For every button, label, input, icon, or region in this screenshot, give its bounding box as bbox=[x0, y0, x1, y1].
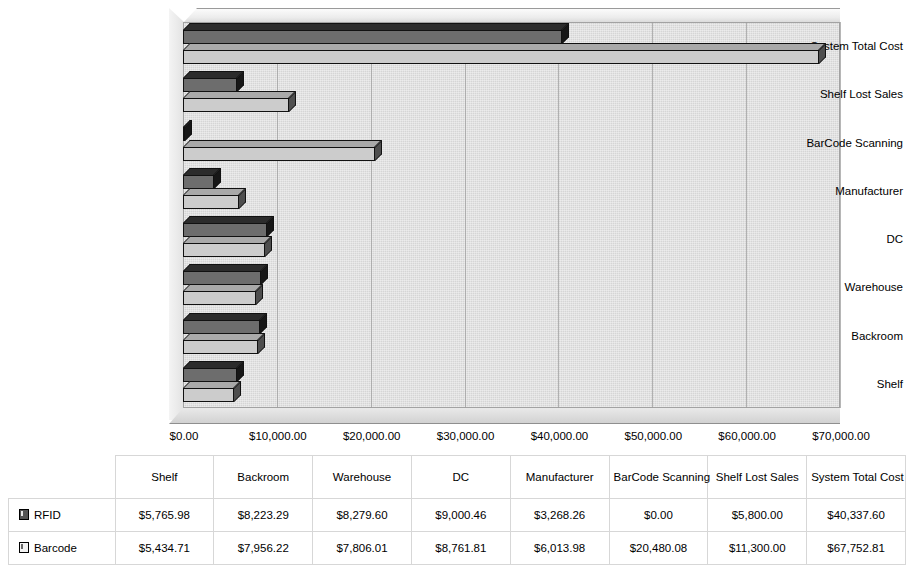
bar-barcode-warehouse bbox=[183, 284, 256, 298]
table-column-header: DC bbox=[411, 456, 510, 499]
bar-barcode-backroom bbox=[183, 333, 258, 347]
x-axis-tick-label: $40,000.00 bbox=[531, 430, 589, 442]
plot-area-background bbox=[183, 22, 840, 408]
gridline bbox=[652, 22, 653, 408]
light-square-icon bbox=[19, 542, 29, 553]
bar-barcode-shelf bbox=[183, 381, 234, 395]
table-column-header: Backroom bbox=[214, 456, 313, 499]
bar-front-face bbox=[183, 195, 239, 209]
table-cell: $5,800.00 bbox=[708, 499, 807, 532]
bar-rfid-manufacturer bbox=[183, 168, 214, 182]
table-row: Barcode$5,434.71$7,956.22$7,806.01$8,761… bbox=[9, 532, 906, 565]
bar-barcode-barcode-scanning bbox=[183, 140, 375, 154]
table-cell: $8,279.60 bbox=[313, 499, 412, 532]
y-axis-tick-label: BarCode Scanning bbox=[741, 137, 911, 149]
table-cell: $7,956.22 bbox=[214, 532, 313, 565]
y-axis-tick-label: Warehouse bbox=[741, 281, 911, 293]
y-axis-tick-label: Manufacturer bbox=[741, 185, 911, 197]
y-axis-tick-label: Shelf bbox=[741, 378, 911, 390]
table-cell: $0.00 bbox=[609, 499, 708, 532]
y-axis-tick-label: Backroom bbox=[741, 330, 911, 342]
table-cell: $5,434.71 bbox=[115, 532, 214, 565]
chart-3d-floor bbox=[169, 408, 840, 424]
x-axis-tick-label: $30,000.00 bbox=[437, 430, 495, 442]
bar-front-face bbox=[183, 340, 258, 354]
table-column-header: Shelf Lost Sales bbox=[708, 456, 807, 499]
table-cell: $6,013.98 bbox=[510, 532, 609, 565]
gridline bbox=[277, 22, 278, 408]
bar-front-face bbox=[183, 368, 237, 382]
bar-top-face bbox=[183, 284, 263, 291]
bar-top-face bbox=[183, 361, 244, 368]
bar-rfid-shelf-lost-sales bbox=[183, 71, 237, 85]
bar-barcode-shelf-lost-sales bbox=[183, 91, 289, 105]
table-cell: $3,268.26 bbox=[510, 499, 609, 532]
x-axis-tick-label: $50,000.00 bbox=[625, 430, 683, 442]
bar-top-face bbox=[183, 23, 569, 30]
x-axis-tick-label: $70,000.00 bbox=[812, 430, 870, 442]
table-row: RFID$5,765.98$8,223.29$8,279.60$9,000.46… bbox=[9, 499, 906, 532]
x-axis-tick-label: $0.00 bbox=[170, 430, 199, 442]
x-axis-tick-label: $60,000.00 bbox=[718, 430, 776, 442]
table-cell: $7,806.01 bbox=[313, 532, 412, 565]
bar-front-face bbox=[183, 243, 265, 257]
bar-front-face bbox=[183, 147, 375, 161]
bar-chart: System Total CostShelf Lost SalesBarCode… bbox=[0, 0, 911, 430]
table-cell: $11,300.00 bbox=[708, 532, 807, 565]
bar-barcode-manufacturer bbox=[183, 188, 239, 202]
bar-top-face bbox=[183, 264, 268, 271]
x-axis-tick-label: $10,000.00 bbox=[249, 430, 307, 442]
table-row-header: RFID bbox=[9, 499, 116, 532]
bar-top-face bbox=[183, 140, 382, 147]
bar-front-face bbox=[183, 175, 214, 189]
bar-rfid-shelf bbox=[183, 361, 237, 375]
bar-top-face bbox=[183, 236, 272, 243]
table-row-header: Barcode bbox=[9, 532, 116, 565]
dark-square-icon bbox=[19, 509, 29, 520]
bar-top-face bbox=[183, 333, 265, 340]
gridline bbox=[465, 22, 466, 408]
table-corner-cell bbox=[9, 456, 116, 499]
bar-top-face bbox=[183, 188, 246, 195]
table-column-header: System Total Cost bbox=[807, 456, 906, 499]
y-axis-tick-label: Shelf Lost Sales bbox=[741, 88, 911, 100]
table-cell: $9,000.46 bbox=[411, 499, 510, 532]
bar-top-face bbox=[183, 313, 267, 320]
gridline bbox=[840, 22, 841, 408]
bar-front-face bbox=[183, 98, 289, 112]
bar-rfid-system-total-cost bbox=[183, 23, 562, 37]
bar-top-face bbox=[183, 71, 244, 78]
gridline bbox=[558, 22, 559, 408]
data-table: ShelfBackroomWarehouseDCManufacturerBarC… bbox=[8, 455, 906, 565]
bar-top-face bbox=[183, 43, 826, 50]
gridline bbox=[746, 22, 747, 408]
table-column-header: BarCode Scanning bbox=[609, 456, 708, 499]
bar-rfid-barcode-scanning bbox=[183, 120, 185, 134]
table-header-row: ShelfBackroomWarehouseDCManufacturerBarC… bbox=[9, 456, 906, 499]
bar-rfid-backroom bbox=[183, 313, 260, 327]
bar-rfid-dc bbox=[183, 216, 267, 230]
y-axis-tick-label: DC bbox=[741, 233, 911, 245]
table-body: RFID$5,765.98$8,223.29$8,279.60$9,000.46… bbox=[9, 499, 906, 565]
bar-front-face bbox=[183, 291, 256, 305]
gridline bbox=[371, 22, 372, 408]
chart-3d-left-wall bbox=[169, 8, 184, 420]
bar-barcode-system-total-cost bbox=[183, 43, 819, 57]
chart-3d-top-wall bbox=[183, 8, 840, 23]
bar-top-face bbox=[183, 216, 274, 223]
table-column-header: Warehouse bbox=[313, 456, 412, 499]
bar-top-face bbox=[183, 91, 296, 98]
bar-top-face bbox=[183, 381, 241, 388]
bar-front-face bbox=[183, 320, 260, 334]
bar-barcode-dc bbox=[183, 236, 265, 250]
table-cell: $40,337.60 bbox=[807, 499, 906, 532]
table-cell: $8,223.29 bbox=[214, 499, 313, 532]
table-cell: $67,752.81 bbox=[807, 532, 906, 565]
table-cell: $8,761.81 bbox=[411, 532, 510, 565]
x-axis-tick-label: $20,000.00 bbox=[343, 430, 401, 442]
bar-front-face bbox=[183, 50, 819, 64]
table-column-header: Shelf bbox=[115, 456, 214, 499]
bar-front-face bbox=[183, 388, 234, 402]
table-cell: $20,480.08 bbox=[609, 532, 708, 565]
